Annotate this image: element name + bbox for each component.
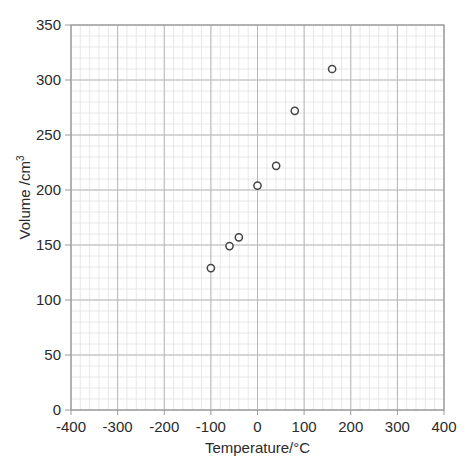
x-tick-label: 200 xyxy=(338,418,363,435)
data-point-marker xyxy=(273,162,280,169)
data-points xyxy=(207,65,335,271)
x-axis-ticks: -400-300-200-1000100200300400 xyxy=(56,410,457,435)
y-axis-title-main: Volume /cm xyxy=(16,161,33,239)
data-point-marker xyxy=(329,65,336,72)
x-tick-label: 100 xyxy=(292,418,317,435)
x-axis-title: Temperature/°C xyxy=(205,439,310,456)
x-tick-label: 300 xyxy=(385,418,410,435)
y-tick-label: 200 xyxy=(36,181,61,198)
scatter-chart: -400-300-200-1000100200300400 0501001502… xyxy=(0,0,469,467)
x-tick-label: -400 xyxy=(56,418,86,435)
data-point-marker xyxy=(235,234,242,241)
x-tick-label: 0 xyxy=(253,418,261,435)
y-axis-title-superscript: 3 xyxy=(15,155,26,161)
y-tick-label: 350 xyxy=(36,16,61,33)
x-tick-label: -300 xyxy=(103,418,133,435)
y-tick-label: 250 xyxy=(36,126,61,143)
x-tick-label: -200 xyxy=(149,418,179,435)
x-tick-label: 400 xyxy=(431,418,456,435)
y-tick-label: 0 xyxy=(53,401,61,418)
y-tick-label: 300 xyxy=(36,71,61,88)
y-tick-label: 100 xyxy=(36,291,61,308)
y-axis-ticks: 050100150200250300350 xyxy=(36,16,71,418)
data-point-marker xyxy=(207,265,214,272)
data-point-marker xyxy=(226,243,233,250)
x-tick-label: -100 xyxy=(196,418,226,435)
y-axis-title: Volume /cm3 xyxy=(15,155,33,239)
data-point-marker xyxy=(291,107,298,114)
y-tick-label: 50 xyxy=(44,346,61,363)
y-tick-label: 150 xyxy=(36,236,61,253)
data-point-marker xyxy=(254,182,261,189)
